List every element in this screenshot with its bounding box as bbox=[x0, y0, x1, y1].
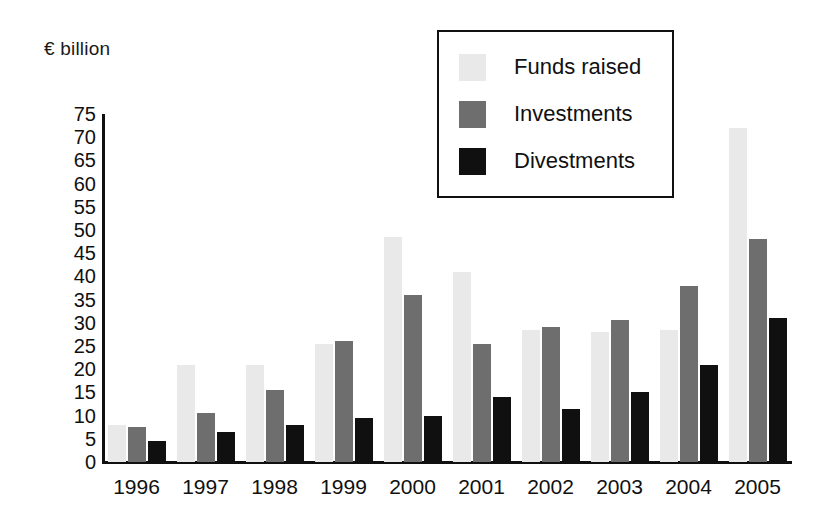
x-tick-label-1996: 1996 bbox=[102, 474, 171, 500]
y-tick-label: 35 bbox=[50, 290, 96, 310]
bar-2002-investments bbox=[542, 327, 560, 462]
legend-swatch-funds-raised bbox=[459, 54, 486, 81]
bars-layer bbox=[102, 114, 792, 462]
bar-2005-funds-raised bbox=[729, 128, 747, 462]
y-tick-label: 50 bbox=[50, 220, 96, 240]
y-tick-label: 5 bbox=[50, 429, 96, 449]
bar-1999-divestments bbox=[355, 418, 373, 462]
x-tick-label-2001: 2001 bbox=[447, 474, 516, 500]
bar-chart: € billion Funds raised Investments Dives… bbox=[0, 0, 819, 528]
bar-1998-divestments bbox=[286, 425, 304, 462]
bar-1996-investments bbox=[128, 427, 146, 462]
bar-2004-funds-raised bbox=[660, 330, 678, 462]
x-tick-label-2000: 2000 bbox=[378, 474, 447, 500]
bar-group-2005 bbox=[723, 114, 792, 462]
y-tick-label: 20 bbox=[50, 359, 96, 379]
bar-2004-divestments bbox=[700, 365, 718, 462]
y-tick-label: 60 bbox=[50, 174, 96, 194]
y-tick-label: 30 bbox=[50, 313, 96, 333]
x-axis-tick-labels: 1996199719981999200020012002200320042005 bbox=[102, 474, 792, 504]
bar-group-2003 bbox=[585, 114, 654, 462]
bar-1999-investments bbox=[335, 341, 353, 462]
y-tick-label: 40 bbox=[50, 266, 96, 286]
bar-group-1998 bbox=[240, 114, 309, 462]
bar-group-2000 bbox=[378, 114, 447, 462]
x-tick-label-1999: 1999 bbox=[309, 474, 378, 500]
bar-2000-divestments bbox=[424, 416, 442, 462]
x-tick-label-2005: 2005 bbox=[723, 474, 792, 500]
x-tick-label-2002: 2002 bbox=[516, 474, 585, 500]
bar-2001-investments bbox=[473, 344, 491, 462]
bar-1996-divestments bbox=[148, 441, 166, 462]
legend-label-funds-raised: Funds raised bbox=[514, 54, 641, 80]
bar-group-2002 bbox=[516, 114, 585, 462]
bar-group-2001 bbox=[447, 114, 516, 462]
bar-1999-funds-raised bbox=[315, 344, 333, 462]
bar-2005-investments bbox=[749, 239, 767, 462]
y-tick-label: 15 bbox=[50, 382, 96, 402]
bar-2002-divestments bbox=[562, 409, 580, 462]
bar-2003-funds-raised bbox=[591, 332, 609, 462]
y-tick-label: 0 bbox=[50, 452, 96, 472]
bar-2002-funds-raised bbox=[522, 330, 540, 462]
bar-2001-divestments bbox=[493, 397, 511, 462]
y-tick-label: 65 bbox=[50, 150, 96, 170]
bar-1997-investments bbox=[197, 413, 215, 462]
y-tick-label: 75 bbox=[50, 104, 96, 124]
bar-2003-divestments bbox=[631, 392, 649, 462]
x-tick-label-1998: 1998 bbox=[240, 474, 309, 500]
x-tick-label-2004: 2004 bbox=[654, 474, 723, 500]
legend-item-funds-raised: Funds raised bbox=[459, 52, 641, 82]
bar-group-1996 bbox=[102, 114, 171, 462]
bar-group-2004 bbox=[654, 114, 723, 462]
bar-1997-divestments bbox=[217, 432, 235, 462]
bar-2000-investments bbox=[404, 295, 422, 462]
bar-1997-funds-raised bbox=[177, 365, 195, 462]
bar-2004-investments bbox=[680, 286, 698, 462]
bar-2003-investments bbox=[611, 320, 629, 462]
y-tick-label: 25 bbox=[50, 336, 96, 356]
bar-1998-funds-raised bbox=[246, 365, 264, 462]
bar-2005-divestments bbox=[769, 318, 787, 462]
y-tick-label: 10 bbox=[50, 406, 96, 426]
bar-group-1997 bbox=[171, 114, 240, 462]
x-tick-label-1997: 1997 bbox=[171, 474, 240, 500]
y-tick-label: 45 bbox=[50, 243, 96, 263]
bar-group-1999 bbox=[309, 114, 378, 462]
x-tick-label-2003: 2003 bbox=[585, 474, 654, 500]
bar-1996-funds-raised bbox=[108, 425, 126, 462]
y-tick-label: 70 bbox=[50, 127, 96, 147]
y-axis-unit-label: € billion bbox=[44, 38, 110, 60]
bar-2001-funds-raised bbox=[453, 272, 471, 462]
y-axis-tick-labels: 757065605550454035302520151050 bbox=[46, 114, 96, 464]
bar-2000-funds-raised bbox=[384, 237, 402, 462]
bar-1998-investments bbox=[266, 390, 284, 462]
y-tick-label: 55 bbox=[50, 197, 96, 217]
